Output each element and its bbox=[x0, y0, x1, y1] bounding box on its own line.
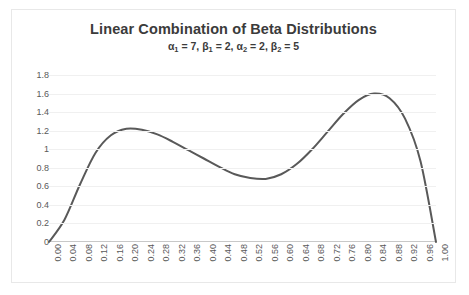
plot-area bbox=[49, 75, 436, 242]
x-axis-tick-label: 0.20 bbox=[130, 244, 140, 262]
x-axis-tick-label: 0.16 bbox=[115, 244, 125, 262]
chart-card: Linear Combination of Beta Distributions… bbox=[11, 9, 456, 283]
curve-svg bbox=[49, 75, 436, 242]
y-axis-tick-label: 0.6 bbox=[15, 181, 49, 191]
y-axis: 00.20.40.60.811.21.41.61.8 bbox=[12, 75, 49, 242]
y-axis-tick-label: 1.4 bbox=[15, 107, 49, 117]
x-axis-tick-label: 0.44 bbox=[223, 244, 233, 262]
x-axis-tick-label: 0.68 bbox=[316, 244, 326, 262]
x-axis-tick-label: 0.00 bbox=[53, 244, 63, 262]
plot-wrap: 00.20.40.60.811.21.41.61.8 0.000.040.080… bbox=[12, 10, 457, 284]
gridline bbox=[49, 75, 436, 76]
gridline bbox=[49, 168, 436, 169]
x-axis-tick-label: 0.24 bbox=[146, 244, 156, 262]
x-axis-tick-label: 0.40 bbox=[208, 244, 218, 262]
gridline bbox=[49, 112, 436, 113]
y-axis-tick-label: 1 bbox=[15, 144, 49, 154]
y-axis-tick-label: 1.8 bbox=[15, 70, 49, 80]
gridline bbox=[49, 205, 436, 206]
y-axis-tick-label: 0.8 bbox=[15, 163, 49, 173]
y-axis-tick-label: 0 bbox=[15, 237, 49, 247]
x-axis-tick-label: 0.84 bbox=[378, 244, 388, 262]
x-axis-tick-label: 0.04 bbox=[68, 244, 78, 262]
x-axis-tick-label: 0.48 bbox=[239, 244, 249, 262]
x-axis-tick-label: 0.88 bbox=[394, 244, 404, 262]
x-axis-tick-label: 0.92 bbox=[409, 244, 419, 262]
x-axis-tick-label: 1.00 bbox=[440, 244, 450, 262]
gridline bbox=[49, 94, 436, 95]
x-axis-tick-label: 0.36 bbox=[192, 244, 202, 262]
y-axis-tick-label: 0.4 bbox=[15, 200, 49, 210]
x-axis-tick-label: 0.12 bbox=[99, 244, 109, 262]
x-axis-tick-label: 0.72 bbox=[332, 244, 342, 262]
x-axis-tick-label: 0.80 bbox=[363, 244, 373, 262]
x-axis-tick-label: 0.08 bbox=[84, 244, 94, 262]
gridline bbox=[49, 131, 436, 132]
x-axis-tick-label: 0.56 bbox=[270, 244, 280, 262]
gridline bbox=[49, 149, 436, 150]
x-axis-tick-label: 0.60 bbox=[285, 244, 295, 262]
x-axis-tick-label: 0.96 bbox=[425, 244, 435, 262]
x-axis-tick-label: 0.28 bbox=[161, 244, 171, 262]
gridline bbox=[49, 223, 436, 224]
x-axis-tick-label: 0.32 bbox=[177, 244, 187, 262]
x-axis: 0.000.040.080.120.160.200.240.280.320.36… bbox=[49, 244, 436, 284]
y-axis-tick-label: 1.6 bbox=[15, 89, 49, 99]
x-axis-tick-label: 0.76 bbox=[347, 244, 357, 262]
x-axis-tick-label: 0.52 bbox=[254, 244, 264, 262]
x-axis-tick-label: 0.64 bbox=[301, 244, 311, 262]
gridline bbox=[49, 186, 436, 187]
y-axis-tick-label: 0.2 bbox=[15, 218, 49, 228]
y-axis-tick-label: 1.2 bbox=[15, 126, 49, 136]
